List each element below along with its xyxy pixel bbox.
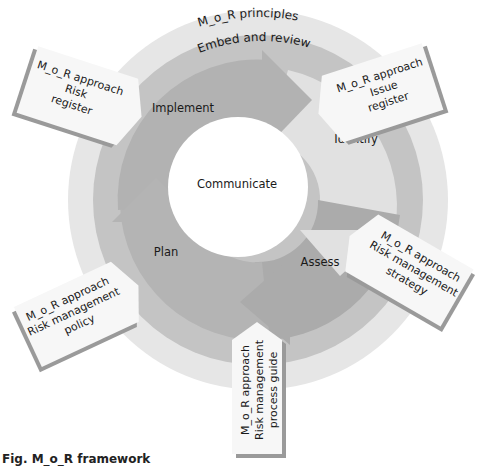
svg-text:Risk management: Risk management	[253, 339, 266, 440]
svg-text:M_o_R approach: M_o_R approach	[239, 345, 252, 435]
center-label: Communicate	[197, 177, 277, 191]
step-plan-label: Plan	[154, 245, 178, 259]
figure-caption: Fig. M_o_R framework	[2, 452, 150, 466]
step-implement-label: Implement	[152, 101, 215, 115]
svg-text:process guide: process guide	[267, 352, 280, 429]
doc-risk-management-process-guide: M_o_R approach Risk management process g…	[232, 322, 286, 458]
step-assess-label: Assess	[301, 255, 340, 269]
